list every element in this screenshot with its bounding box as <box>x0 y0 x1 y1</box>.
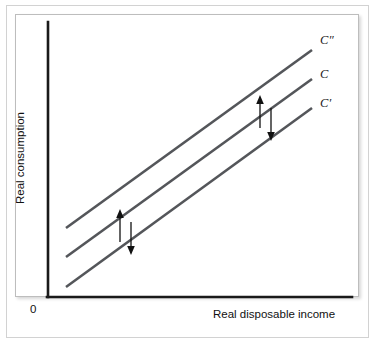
y-axis-label: Real consumption <box>14 93 26 223</box>
curve-label-upper: C″ <box>320 33 334 48</box>
chart-drawing-surface <box>0 0 376 345</box>
consumption-line-upper <box>66 50 312 228</box>
origin-label: 0 <box>30 303 36 315</box>
consumption-line-lower <box>66 108 312 287</box>
right-up-arrow-icon <box>256 95 264 128</box>
consumption-line-middle <box>66 79 312 257</box>
curve-label-middle: C <box>320 67 329 82</box>
left-up-arrow-icon <box>116 209 124 242</box>
x-axis-label: Real disposable income <box>213 308 335 320</box>
figure-root: C″ C C′ Real disposable income Real cons… <box>0 0 376 345</box>
curve-label-lower: C′ <box>320 96 331 111</box>
